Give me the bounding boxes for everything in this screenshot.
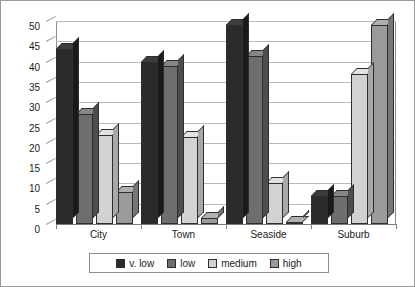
legend-swatch-icon (116, 259, 125, 268)
y-axis-tick-label: 10 (18, 183, 40, 194)
y-axis-tick-label: 5 (18, 203, 40, 214)
bar-group-city (56, 21, 141, 224)
bar-side-face (178, 54, 184, 218)
y-axis-tick-label: 40 (18, 61, 40, 72)
x-axis: CityTownSeasideSuburb (56, 224, 396, 244)
legend-item-low[interactable]: low (167, 258, 195, 269)
x-axis-tick (311, 224, 312, 229)
y-axis-tick (46, 219, 56, 225)
x-axis-tick (396, 224, 397, 229)
bar-side-face (158, 50, 164, 218)
bar-side-face (388, 13, 394, 218)
legend-item-medium[interactable]: medium (208, 258, 257, 269)
bar-front-face (141, 62, 158, 224)
bar-city-vlow (56, 49, 73, 224)
bar-side-face (113, 123, 119, 218)
x-axis-label-seaside: Seaside (250, 229, 286, 240)
y-axis-tick (46, 138, 56, 144)
x-axis-tick (141, 224, 142, 229)
bar-side-face (218, 206, 224, 218)
y-axis-tick-label: 45 (18, 41, 40, 52)
legend-label: v. low (129, 258, 154, 269)
bar-side-face (93, 102, 99, 218)
y-axis-tick (46, 36, 56, 42)
bar-front-face (201, 218, 218, 224)
y-axis-tick-label: 30 (18, 102, 40, 113)
bar-group-seaside (226, 21, 311, 224)
x-axis-label-town: Town (172, 229, 195, 240)
x-axis-label-city: City (90, 229, 107, 240)
bar-side-face (328, 184, 334, 218)
bar-side-face (133, 180, 139, 218)
y-axis-tick (46, 158, 56, 164)
bar-front-face (286, 222, 303, 224)
bar-group-suburb (311, 21, 396, 224)
legend-label: medium (221, 258, 257, 269)
y-axis-tick (46, 117, 56, 123)
y-axis-tick-label: 35 (18, 81, 40, 92)
y-axis-tick (46, 56, 56, 62)
bar-town-vlow (141, 62, 158, 224)
y-axis-tick-label: 25 (18, 122, 40, 133)
bar-front-face (311, 196, 328, 224)
legend-label: low (180, 258, 195, 269)
bar-chart-figure: 05101520253035404550 CityTownSeasideSubu… (0, 0, 415, 287)
x-axis-tick (226, 224, 227, 229)
plot-area: 05101520253035404550 (46, 21, 396, 224)
x-axis-label-suburb: Suburb (337, 229, 369, 240)
bar-side-face (368, 62, 374, 218)
legend-label: high (283, 258, 302, 269)
bar-front-face (56, 49, 73, 224)
bar-side-face (283, 171, 289, 218)
x-axis-tick (56, 224, 57, 229)
bar-seaside-vlow (226, 25, 243, 224)
y-axis-tick-label: 15 (18, 163, 40, 174)
bar-suburb-vlow (311, 196, 328, 224)
y-axis-tick-label: 50 (18, 21, 40, 32)
legend-swatch-icon (270, 259, 279, 268)
y-axis-tick-label: 20 (18, 142, 40, 153)
bar-side-face (73, 37, 79, 218)
y-axis-tick (46, 178, 56, 184)
y-axis-tick (46, 16, 56, 22)
bar-group-town (141, 21, 226, 224)
legend-swatch-icon (208, 259, 217, 268)
y-axis-tick-label: 0 (18, 224, 40, 235)
y-axis-tick (46, 77, 56, 83)
y-axis-tick (46, 199, 56, 205)
bar-town-high (201, 218, 218, 224)
bar-side-face (348, 184, 354, 218)
bar-side-face (243, 13, 249, 218)
legend-item-high[interactable]: high (270, 258, 302, 269)
bar-seaside-high (286, 222, 303, 224)
legend-swatch-icon (167, 259, 176, 268)
y-axis-tick (46, 97, 56, 103)
chart-legend: v. lowlowmediumhigh (89, 253, 329, 273)
bar-front-face (226, 25, 243, 224)
bar-side-face (263, 44, 269, 218)
legend-item-vlow[interactable]: v. low (116, 258, 154, 269)
bar-side-face (198, 125, 204, 218)
